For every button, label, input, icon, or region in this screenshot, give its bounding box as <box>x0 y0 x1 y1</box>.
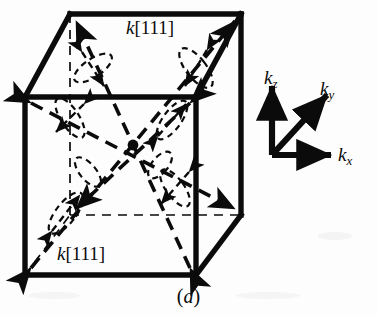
zone-center-point <box>128 140 139 151</box>
axis-label-kx-subscript: x <box>346 153 352 168</box>
valley-axis-label-bottom: k[111] <box>57 244 105 263</box>
figure-caption-open: ( <box>177 285 184 307</box>
figure-caption-letter: a <box>184 285 194 307</box>
valley-direction-arrows <box>52 50 207 231</box>
diagonal-2 <box>31 103 235 209</box>
valley-axis-label-top-index: [111] <box>134 17 174 38</box>
scan-speckle <box>236 292 300 299</box>
axis-label-kx: kx <box>338 145 352 168</box>
brillouin-zone-figure: k[111] k[111] kz ky kx (a) <box>0 0 377 316</box>
axis-label-kz: kz <box>264 68 277 91</box>
valley-axis-label-top: k[111] <box>126 18 174 37</box>
figure-caption-close: ) <box>194 285 201 307</box>
axis-label-kz-subscript: z <box>272 76 277 91</box>
brillouin-zone-drawing <box>0 0 377 316</box>
scan-speckle <box>318 232 352 240</box>
scan-speckle <box>28 292 80 299</box>
axis-label-ky: ky <box>320 79 334 102</box>
valley-front-bottom-left <box>43 187 90 239</box>
valley-axis-label-bottom-index: [111] <box>65 243 105 264</box>
ky-axis-arrow <box>272 95 327 155</box>
axis-label-ky-subscript: y <box>328 87 334 102</box>
